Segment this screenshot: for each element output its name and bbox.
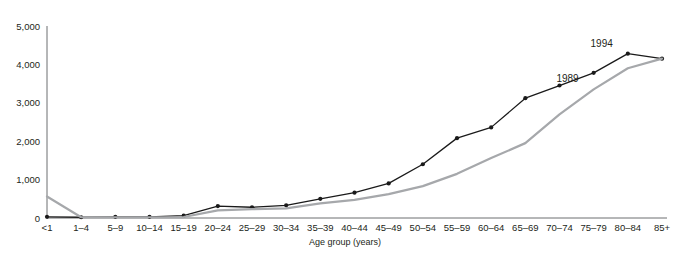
data-point-marker <box>387 181 391 185</box>
x-tick-label: 10–14 <box>136 222 162 233</box>
x-tick-label: 75–79 <box>580 222 606 233</box>
x-tick-labels: <11–45–910–1415–1920–2425–2930–3435–3940… <box>42 222 671 233</box>
data-point-marker <box>352 191 356 195</box>
x-tick-label: 45–49 <box>375 222 401 233</box>
y-tick-label: 2,000 <box>16 136 40 147</box>
data-point-marker <box>318 197 322 201</box>
y-tick-labels: 01,0002,0003,0004,0005,000 <box>16 21 40 224</box>
data-point-marker <box>455 136 459 140</box>
data-point-marker <box>523 96 527 100</box>
y-tick-label: 4,000 <box>16 59 40 70</box>
data-point-marker <box>45 215 49 219</box>
data-point-marker <box>489 125 493 129</box>
line-chart: 01,0002,0003,0004,0005,000 <11–45–910–14… <box>0 0 679 260</box>
x-axis-title: Age group (years) <box>309 237 381 247</box>
data-point-marker <box>626 52 630 56</box>
y-tick-label: 3,000 <box>16 97 40 108</box>
data-point-marker <box>216 204 220 208</box>
data-point-marker <box>421 162 425 166</box>
y-tick-label: 0 <box>35 213 40 224</box>
x-tick-label: 1–4 <box>73 222 89 233</box>
x-tick-label: 15–19 <box>170 222 196 233</box>
x-tick-label: 55–59 <box>444 222 470 233</box>
x-axis-group: <11–45–910–1415–1920–2425–2930–3435–3940… <box>42 218 671 233</box>
x-tick-label: 80–84 <box>615 222 641 233</box>
x-tick-label: 30–34 <box>273 222 299 233</box>
x-tick-label: 25–29 <box>239 222 265 233</box>
x-tick-label: 20–24 <box>205 222 231 233</box>
x-tick-label: 5–9 <box>107 222 123 233</box>
series-annotations: 19941989 <box>556 38 613 85</box>
y-tick-label: 1,000 <box>16 174 40 185</box>
chart-container: 01,0002,0003,0004,0005,000 <11–45–910–14… <box>0 0 679 260</box>
x-tick-label: 60–64 <box>478 222 504 233</box>
y-axis-group: 01,0002,0003,0004,0005,000 <box>16 21 47 224</box>
x-tick-label: 70–74 <box>546 222 572 233</box>
series-annotation-label: 1989 <box>556 73 579 84</box>
y-tick-label: 5,000 <box>16 21 40 32</box>
x-tick-label: <1 <box>42 222 53 233</box>
series-annotation-label: 1994 <box>591 38 614 49</box>
data-point-marker <box>592 71 596 75</box>
data-point-marker <box>284 203 288 207</box>
x-tick-label: 65–69 <box>512 222 538 233</box>
x-tick-label: 85+ <box>654 222 671 233</box>
x-tick-label: 35–39 <box>307 222 333 233</box>
x-tick-label: 50–54 <box>410 222 436 233</box>
x-tick-label: 40–44 <box>341 222 367 233</box>
